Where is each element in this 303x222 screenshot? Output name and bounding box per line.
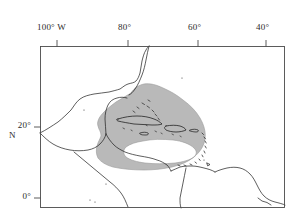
map-figure: 100° W 80° 60° 40° 20° N 0° bbox=[0, 0, 303, 222]
coastline-brazil-northeast bbox=[258, 198, 271, 205]
y-tick-label-0: 0° bbox=[8, 191, 31, 201]
coastline-panama-colombia bbox=[171, 166, 215, 172]
y-tick-label-20n: 20° N bbox=[8, 120, 31, 140]
x-tick-label-100w: 100° W bbox=[37, 22, 66, 32]
coastline-trinidad bbox=[207, 163, 210, 166]
y-tick-label-20n-hemisphere: N bbox=[9, 130, 31, 140]
coastline-mexico-east bbox=[40, 133, 106, 151]
x-tick-label-80: 80° bbox=[118, 22, 131, 32]
map-canvas bbox=[0, 0, 303, 222]
y-axis-ticks bbox=[34, 127, 41, 198]
shaded-range-layer bbox=[96, 84, 205, 170]
shaded-range-polygon bbox=[96, 84, 205, 170]
y-tick-label-20n-value: 20° bbox=[18, 120, 31, 130]
coastline-south-america-north bbox=[215, 167, 285, 205]
x-tick-label-60: 60° bbox=[188, 22, 201, 32]
x-axis-ticks bbox=[57, 40, 266, 47]
x-tick-label-40: 40° bbox=[256, 22, 269, 32]
coastline-south-america-interior bbox=[180, 168, 186, 208]
